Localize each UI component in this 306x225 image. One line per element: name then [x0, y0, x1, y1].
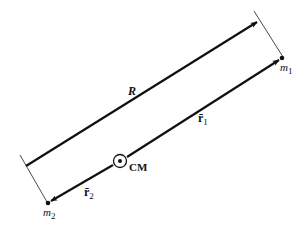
cm-vector-diagram: R r̄1 r̄2 CM m1 m2	[0, 0, 306, 225]
extension-line-m1	[254, 11, 283, 57]
label-m2: m2	[43, 206, 55, 221]
vector-r1-arrow	[127, 60, 279, 157]
label-r2: r̄2	[84, 185, 94, 201]
label-m1: m1	[280, 61, 292, 76]
vector-R-arrow	[26, 22, 257, 166]
vector-r2-arrow	[51, 165, 113, 201]
label-R: R	[127, 84, 136, 98]
label-r1: r̄1	[198, 111, 208, 127]
mass-m1-dot	[280, 56, 285, 61]
center-of-mass-icon	[114, 155, 127, 168]
mass-m2-dot	[46, 201, 51, 206]
label-cm: CM	[129, 161, 148, 173]
